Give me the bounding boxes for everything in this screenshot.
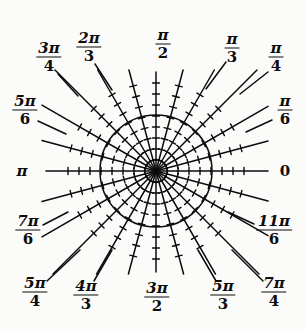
fraction: 4π3 [73,279,98,312]
leader-line-eleven-pi-over-6 [228,212,254,224]
fraction-numerator: 11π [256,214,292,231]
fraction-denominator: 3 [210,296,235,312]
fraction-numerator: 3π [144,281,169,298]
radial-tick [164,128,171,130]
fraction-denominator: 6 [15,231,40,247]
radial-tick [175,85,182,87]
angle-label-pi-over-6: π6 [278,94,293,127]
fraction: 11π6 [256,214,292,247]
angle-label-zero: 0 [280,163,290,179]
fraction-denominator: 4 [36,58,61,74]
leader-line-two-pi-over-3 [95,64,112,90]
fraction-numerator: 5π [210,279,235,296]
fraction-denominator: 2 [144,298,169,314]
radial-tick [170,106,177,108]
fraction: 7π4 [261,276,286,309]
fraction-numerator: 4π [73,279,98,296]
radial-ray-165deg [42,140,156,171]
scalar-label: π [17,162,28,180]
leader-line-pi-over-6 [246,120,272,132]
radial-tick [176,173,178,180]
radial-tick [113,156,115,163]
fraction-numerator: π [269,41,284,58]
radial-tick [173,96,180,98]
leader-line-seven-pi-over-6 [43,212,68,225]
fraction-numerator: 5π [12,94,37,111]
radial-tick [219,185,221,192]
fraction: 3π4 [36,41,61,74]
fraction-denominator: 4 [22,293,47,309]
fraction-denominator: 6 [12,111,37,127]
radial-tick [141,128,148,130]
fraction-denominator: 6 [256,231,292,247]
radial-tick [187,159,189,166]
radial-tick [170,234,177,236]
radial-tick [123,176,125,183]
fraction-numerator: π [278,94,293,111]
fraction-denominator: 4 [261,293,286,309]
angle-label-seven-pi-over-6: 7π6 [15,214,40,247]
radial-tick [123,159,125,166]
radial-tick [91,151,93,158]
radial-tick [240,190,242,197]
angle-label-five-pi-over-6: 5π6 [12,94,37,127]
angle-label-pi-over-3: π3 [225,32,240,65]
leader-line-three-pi-over-4 [58,74,78,96]
radial-tick [130,85,137,87]
angle-label-eleven-pi-over-6: 11π6 [256,214,292,247]
radial-tick [229,148,231,155]
radial-tick [198,156,200,163]
radial-tick [136,106,143,108]
fraction: π6 [278,94,293,127]
angle-label-pi-over-4: π4 [269,41,284,74]
fraction-numerator: π [156,28,171,45]
fraction-denominator: 3 [225,49,240,65]
angle-label-pi: π [17,163,28,179]
radial-tick [91,185,93,192]
fraction-denominator: 6 [278,111,293,127]
radial-tick [133,244,140,246]
radial-tick [81,188,83,195]
radial-tick [144,202,151,204]
radial-tick [175,255,182,257]
radial-ray-195deg [42,171,156,202]
radial-tick [81,148,83,155]
radial-tick [229,188,231,195]
fraction: 5π3 [210,279,235,312]
fraction-numerator: 3π [36,41,61,58]
radial-tick [113,179,115,186]
radial-tick [164,213,171,215]
fraction-numerator: 7π [261,276,286,293]
angle-label-pi-over-2: π2 [156,28,171,61]
fraction-numerator: 5π [22,276,47,293]
fraction-numerator: 2π [76,31,101,48]
radial-tick [240,145,242,152]
fraction-denominator: 3 [76,48,101,64]
fraction: 7π6 [15,214,40,247]
radial-tick [187,176,189,183]
fraction: π3 [225,32,240,65]
radial-tick [70,190,72,197]
fraction: 5π4 [22,276,47,309]
angle-label-five-pi-over-4: 5π4 [22,276,47,309]
angle-label-three-pi-over-2: 3π2 [144,281,169,314]
radial-tick [136,234,143,236]
fraction: 3π2 [144,281,169,314]
radial-ray-group [42,70,268,274]
angle-label-five-pi-over-3: 5π3 [210,279,235,312]
angle-label-three-pi-over-4: 3π4 [36,41,61,74]
radial-tick [161,138,168,140]
radial-tick [173,244,180,246]
leader-line-five-pi-over-6 [38,121,66,134]
fraction: 5π6 [12,94,37,127]
leader-line-pi-over-3 [206,62,226,89]
polar-coordinate-figure: 0π6π4π3π22π33π45π6π7π65π44π33π25π37π411π… [0,0,305,332]
fraction-denominator: 2 [156,45,171,61]
fraction-numerator: π [225,32,240,49]
leader-line-seven-pi-over-4 [232,250,263,281]
radial-tick [130,255,137,257]
angle-label-seven-pi-over-4: 7π4 [261,276,286,309]
radial-tick [70,145,72,152]
radial-tick [161,202,168,204]
fraction-denominator: 4 [269,58,284,74]
